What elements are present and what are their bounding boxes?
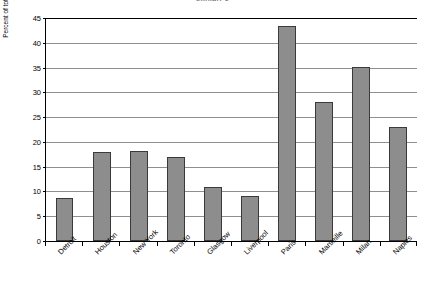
y-tick-label: 45 — [33, 14, 41, 23]
y-tick-label: 20 — [33, 137, 41, 146]
x-tick-mark — [119, 242, 120, 246]
y-axis-title: Percent of total population — [2, 0, 9, 70]
bar-slot — [343, 18, 380, 241]
bar-slot — [157, 18, 194, 241]
bar-slot — [83, 18, 120, 241]
chart-title: EXHIBIT 3 — [0, 0, 425, 3]
x-tick-mark — [380, 242, 381, 246]
bar — [204, 187, 222, 242]
bar — [389, 127, 407, 241]
x-tick-mark — [268, 242, 269, 246]
bar-slot — [120, 18, 157, 241]
x-tick-mark — [231, 242, 232, 246]
bar-slot — [46, 18, 83, 241]
y-tick-label: 5 — [37, 212, 41, 221]
bar — [352, 67, 370, 241]
bar — [278, 26, 296, 241]
bar — [130, 151, 148, 241]
y-tick-label: 25 — [33, 113, 41, 122]
x-tick-mark — [305, 242, 306, 246]
bar-series — [46, 18, 417, 241]
bar — [315, 102, 333, 241]
bar-slot — [306, 18, 343, 241]
x-axis-end-tick — [416, 242, 417, 246]
bar-chart: EXHIBIT 3 Percent of total population 05… — [0, 0, 425, 296]
y-tick-label: 30 — [33, 88, 41, 97]
y-tick-label: 15 — [33, 162, 41, 171]
bar-slot — [231, 18, 268, 241]
bar — [167, 157, 185, 241]
x-tick-mark — [343, 242, 344, 246]
y-tick-label: 10 — [33, 187, 41, 196]
plot-area: 051015202530354045 — [45, 18, 417, 242]
y-tick-label: 35 — [33, 63, 41, 72]
y-tick-label: 0 — [37, 237, 41, 246]
x-tick-mark — [82, 242, 83, 246]
x-tick-mark — [157, 242, 158, 246]
bar-slot — [194, 18, 231, 241]
x-axis: DetroitHoustonNew YorkTorontoGlasgowLive… — [45, 242, 417, 296]
bar-slot — [269, 18, 306, 241]
x-tick-mark — [194, 242, 195, 246]
y-tick-label: 40 — [33, 38, 41, 47]
bar-slot — [380, 18, 417, 241]
x-tick-mark — [45, 242, 46, 246]
bar — [93, 152, 111, 241]
